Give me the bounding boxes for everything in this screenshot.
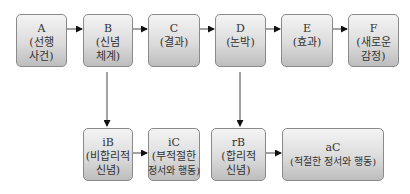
node-label: (합리적 xyxy=(221,150,255,164)
node-f: F (새로운 감정) xyxy=(348,14,399,67)
node-label: 체계) xyxy=(96,50,120,64)
node-b: B (신념 체계) xyxy=(83,14,133,67)
node-label: (논박) xyxy=(226,36,255,50)
node-label: iB xyxy=(102,136,114,150)
node-label: C xyxy=(170,22,178,36)
node-label: D xyxy=(236,22,245,36)
node-label: (신념 xyxy=(96,36,120,50)
node-label: rB xyxy=(232,136,245,150)
node-label: 신념) xyxy=(226,164,250,178)
node-label: aC xyxy=(326,141,341,155)
node-label: (부적절한 xyxy=(152,150,196,164)
node-e: E (효과) xyxy=(281,14,333,67)
node-label: 정서와 행동) xyxy=(148,164,200,178)
node-label: (효과) xyxy=(293,36,322,50)
node-label: B xyxy=(104,22,112,36)
node-d: D (논박) xyxy=(215,14,266,67)
node-label: (적절한 정서와 행동) xyxy=(290,155,376,169)
node-label: (선행 xyxy=(29,36,53,50)
node-label: 신념) xyxy=(96,164,120,178)
node-label: (결과) xyxy=(160,36,189,50)
node-ac: aC (적절한 정서와 행동) xyxy=(282,128,384,181)
node-c: C (결과) xyxy=(148,14,200,67)
node-label: 감정) xyxy=(361,50,385,64)
node-ib: iB (비합리적 신념) xyxy=(83,128,133,181)
node-label: (비합리적 xyxy=(86,150,130,164)
node-label: 사건) xyxy=(29,50,53,64)
node-ic: iC (부적절한 정서와 행동) xyxy=(148,128,200,181)
node-a: A (선행 사건) xyxy=(16,14,67,67)
node-label: F xyxy=(370,22,378,36)
node-label: iC xyxy=(168,136,180,150)
node-label: A xyxy=(38,22,46,36)
node-rb: rB (합리적 신념) xyxy=(211,128,266,181)
node-label: (새로운 xyxy=(356,36,390,50)
node-label: E xyxy=(303,22,311,36)
